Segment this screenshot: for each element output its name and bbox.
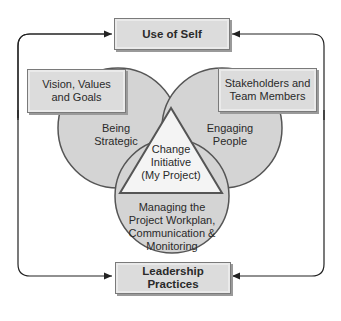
stakeholders-line2: Team Members <box>230 90 306 103</box>
stakeholders-line1: Stakeholders and <box>225 77 311 90</box>
stakeholders-box: Stakeholders and Team Members <box>218 68 317 112</box>
engaging-people-label: Engaging People <box>200 122 260 148</box>
use-of-self-box: Use of Self <box>114 18 230 50</box>
managing-project-label: Managing the Project Workplan, Communica… <box>126 201 218 253</box>
vision-values-goals-box: Vision, Values and Goals <box>27 69 126 113</box>
leadership-practices-label: Leadership Practices <box>116 265 230 291</box>
use-of-self-label: Use of Self <box>142 28 201 41</box>
vision-values-goals-line1: Vision, Values <box>42 78 111 91</box>
leadership-practices-box: Leadership Practices <box>115 262 231 294</box>
change-initiative-label: Change Initiative (My Project) <box>136 143 206 182</box>
vision-values-goals-line2: and Goals <box>51 91 101 104</box>
